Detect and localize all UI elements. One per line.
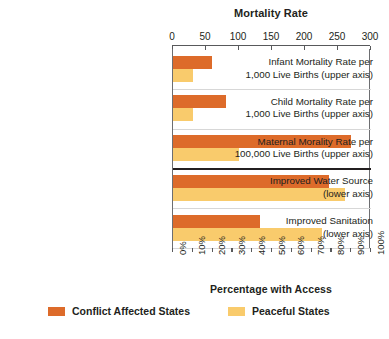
legend-label: Conflict Affected States: [72, 305, 190, 317]
category-label-line: (lower axis): [212, 188, 373, 201]
bottom-axis-ticklabel: 20%: [216, 236, 227, 255]
bottom-axis-tick: [251, 248, 252, 252]
bottom-axis-ticklabel: 60%: [295, 236, 306, 255]
bottom-axis-ticklabel: 90%: [355, 236, 366, 255]
category-label-line: Improved Sanitation: [212, 215, 373, 228]
bottom-axis-ticklabel: 0%: [177, 241, 188, 255]
bottom-axis-ticklabel: 10%: [196, 236, 207, 255]
legend-swatch-peaceful: [228, 307, 245, 316]
bottom-axis-ticklabel: 80%: [335, 236, 346, 255]
category-label: Infant Mortality Rate per1,000 Live Birt…: [212, 56, 380, 81]
bottom-axis-title: Percentage with Access: [172, 283, 370, 295]
category-label-line: Infant Mortality Rate per: [212, 56, 373, 69]
bottom-axis-ticklabel: 40%: [256, 236, 267, 255]
bottom-axis-tick: [291, 248, 292, 252]
legend-swatch-conflict: [48, 307, 65, 316]
legend: Conflict Affected StatesPeaceful States: [0, 305, 380, 327]
category-label: Improved Water Source(lower axis): [212, 175, 380, 200]
bottom-axis-tick: [271, 248, 272, 252]
bottom-axis-tick: [311, 248, 312, 252]
category-label: Child Mortality Rate per1,000 Live Birth…: [212, 96, 380, 121]
bottom-axis-tick: [370, 248, 371, 252]
category-label-line: 1,000 Live Births (upper axis): [212, 108, 373, 121]
bottom-axis-tick: [231, 248, 232, 252]
category-label-line: Child Mortality Rate per: [212, 96, 373, 109]
row-separator: [173, 89, 371, 90]
top-axis-ticklabel: 300: [350, 31, 389, 42]
category-label-line: 1,000 Live Births (upper axis): [212, 69, 373, 82]
legend-label: Peaceful States: [252, 305, 330, 317]
bottom-axis-tick: [350, 248, 351, 252]
bar-peaceful: [173, 108, 193, 121]
top-axis-title: Mortality Rate: [172, 7, 370, 19]
axis-group-divider: [173, 168, 371, 170]
bottom-axis-tick: [330, 248, 331, 252]
row-separator: [173, 208, 371, 209]
legend-item[interactable]: Conflict Affected States: [48, 305, 190, 317]
bottom-axis: 0%10%20%30%40%50%60%70%80%90%100%: [172, 248, 370, 252]
category-label-line: Maternal Morality Rate per: [212, 136, 373, 149]
row-separator: [173, 129, 371, 130]
bottom-axis-tick: [172, 248, 173, 252]
legend-item[interactable]: Peaceful States: [228, 305, 330, 317]
bottom-axis-ticklabel: 70%: [315, 236, 326, 255]
bottom-axis-tick: [212, 248, 213, 252]
bottom-axis-tick: [192, 248, 193, 252]
top-axis-tick: [370, 46, 371, 50]
category-label-line: Improved Water Source: [212, 175, 373, 188]
bottom-axis-ticklabel: 30%: [236, 236, 247, 255]
category-label: Maternal Morality Rate per100,000 Live B…: [212, 136, 380, 161]
category-label-line: 100,000 Live Births (upper axis): [212, 148, 373, 161]
bottom-axis-ticklabel: 50%: [276, 236, 287, 255]
bar-conflict: [173, 56, 212, 69]
bottom-axis-ticklabel: 100%: [375, 231, 386, 255]
bar-peaceful: [173, 69, 193, 82]
